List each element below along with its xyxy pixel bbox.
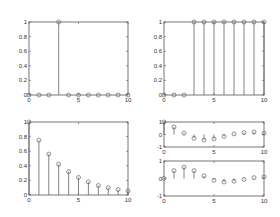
stem-plot-3: 00.20.40.60.810510 bbox=[19, 119, 132, 203]
x-tick-label: 0 bbox=[162, 149, 166, 155]
y-tick-label: 1 bbox=[24, 19, 28, 25]
stem-plot-1: 00.20.40.60.810510 bbox=[19, 19, 132, 103]
x-tick-label: 0 bbox=[27, 197, 31, 203]
x-tick-label: 0 bbox=[27, 97, 31, 103]
y-tick-label: 0.2 bbox=[154, 77, 163, 83]
y-tick-label: 0.4 bbox=[154, 63, 163, 69]
stem-plot-5: -1010510 bbox=[157, 158, 268, 204]
y-tick-label: 0.8 bbox=[154, 34, 163, 40]
x-tick-label: 10 bbox=[125, 97, 132, 103]
y-tick-label: 0.4 bbox=[19, 163, 28, 169]
x-tick-label: 10 bbox=[125, 197, 132, 203]
x-tick-label: 5 bbox=[77, 197, 81, 203]
y-tick-label: 0.2 bbox=[19, 77, 28, 83]
x-tick-label: 0 bbox=[162, 198, 166, 204]
y-tick-label: 0.8 bbox=[19, 134, 28, 140]
x-tick-label: 10 bbox=[261, 198, 268, 204]
y-tick-label: 0.8 bbox=[19, 34, 28, 40]
x-tick-label: 0 bbox=[162, 97, 166, 103]
x-tick-label: 10 bbox=[261, 97, 268, 103]
y-tick-label: 1 bbox=[159, 19, 163, 25]
stem-plot-2: 00.20.40.60.810510 bbox=[154, 19, 268, 103]
x-tick-label: 5 bbox=[212, 97, 216, 103]
x-tick-label: 5 bbox=[212, 198, 216, 204]
y-tick-label: 1 bbox=[159, 158, 163, 164]
x-tick-label: 5 bbox=[212, 149, 216, 155]
y-tick-label: 0.4 bbox=[19, 63, 28, 69]
y-tick-label: 0.2 bbox=[19, 177, 28, 183]
x-tick-label: 10 bbox=[261, 149, 268, 155]
y-tick-label: 0.6 bbox=[19, 148, 28, 154]
y-tick-label: 0.6 bbox=[154, 48, 163, 54]
y-tick-label: 0.6 bbox=[19, 48, 28, 54]
stem-plot-figure: 00.20.40.60.81051000.20.40.60.81051000.2… bbox=[0, 0, 280, 217]
x-tick-label: 5 bbox=[77, 97, 81, 103]
stem-plot-4: -1010510 bbox=[157, 119, 268, 155]
y-tick-label: 0 bbox=[159, 132, 163, 138]
axes-frame bbox=[29, 22, 128, 95]
